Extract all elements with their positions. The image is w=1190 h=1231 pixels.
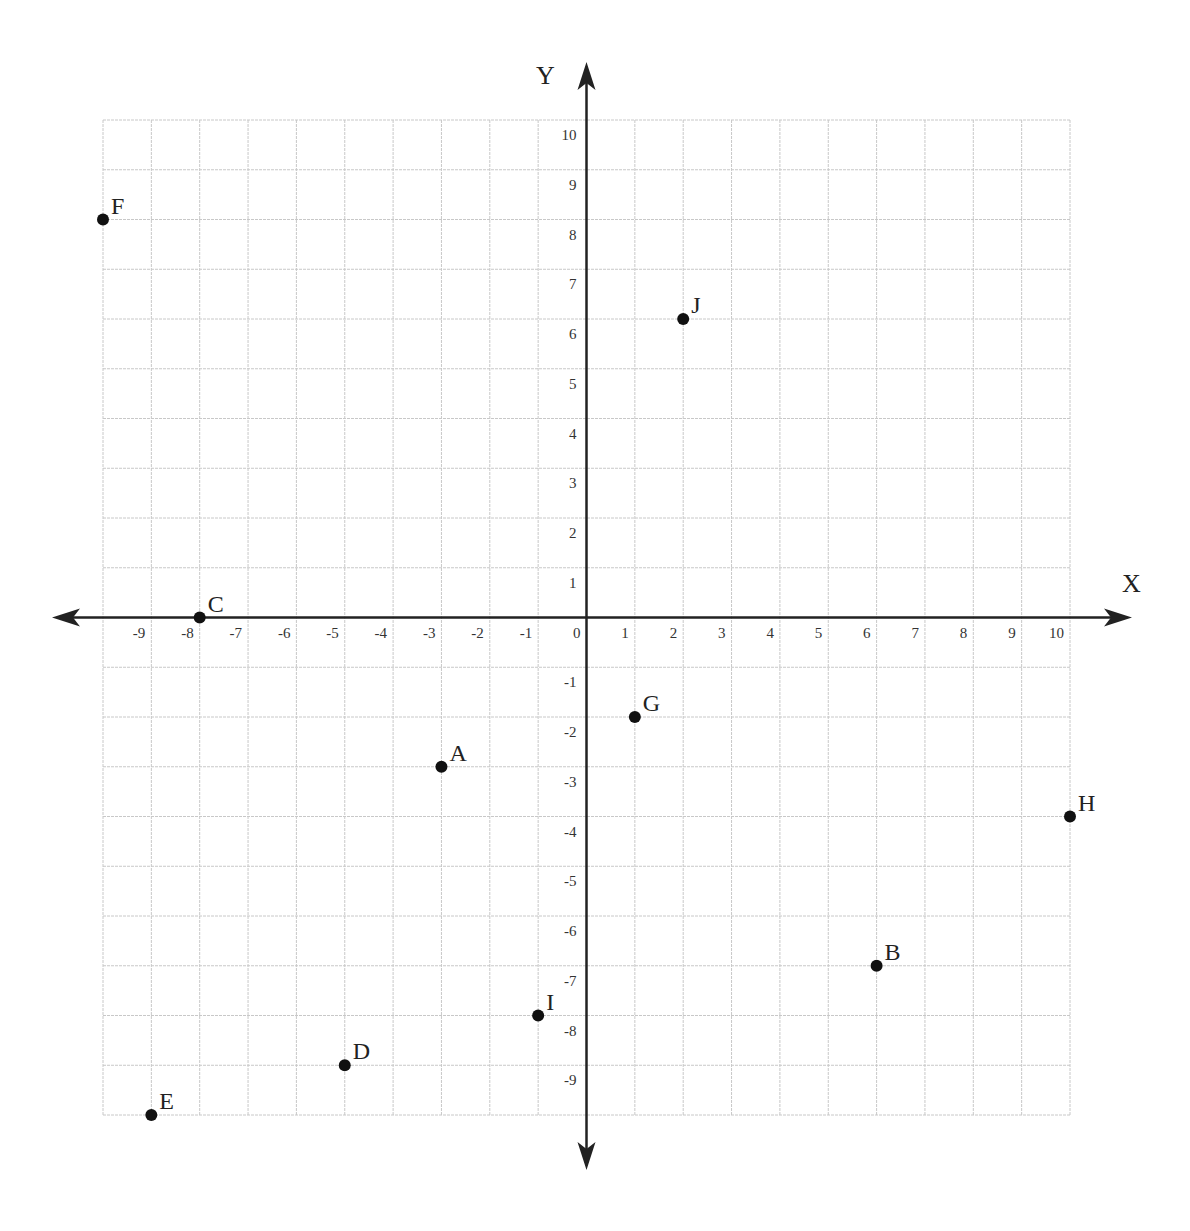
point-marker-icon — [145, 1109, 157, 1121]
x-tick-label: 10 — [1049, 625, 1064, 641]
x-tick-label: -8 — [181, 625, 194, 641]
data-point-j: J — [677, 292, 700, 325]
x-tick-label: 2 — [670, 625, 678, 641]
x-tick-label: -2 — [471, 625, 484, 641]
x-tick-label: -3 — [423, 625, 436, 641]
point-label: J — [691, 292, 700, 318]
y-tick-label: -8 — [564, 1023, 577, 1039]
x-tick-label: 7 — [911, 625, 919, 641]
tick-labels: -9-8-7-6-5-4-3-2-10123456789101098765432… — [133, 127, 1064, 1088]
y-tick-label: 8 — [569, 227, 577, 243]
y-tick-label: -6 — [564, 923, 577, 939]
y-tick-label: -7 — [564, 973, 577, 989]
y-tick-label: 1 — [569, 575, 577, 591]
data-point-d: D — [339, 1038, 370, 1071]
data-point-b: B — [871, 939, 901, 972]
data-point-e: E — [145, 1088, 174, 1121]
y-tick-label: 3 — [569, 475, 577, 491]
x-tick-label: -7 — [230, 625, 243, 641]
x-tick-label: 0 — [573, 625, 581, 641]
x-tick-label: -9 — [133, 625, 146, 641]
y-tick-label: 5 — [569, 376, 577, 392]
y-tick-label: -9 — [564, 1072, 577, 1088]
y-tick-label: 6 — [569, 326, 577, 342]
x-tick-label: -5 — [326, 625, 339, 641]
y-tick-label: 10 — [562, 127, 577, 143]
y-tick-label: -4 — [564, 824, 577, 840]
data-point-a: A — [435, 740, 467, 773]
data-points: ABCDEFGHIJ — [97, 193, 1095, 1122]
x-tick-label: 1 — [621, 625, 629, 641]
point-marker-icon — [871, 960, 883, 972]
point-label: F — [111, 193, 124, 219]
y-tick-label: -3 — [564, 774, 577, 790]
point-marker-icon — [532, 1010, 544, 1022]
point-marker-icon — [194, 612, 206, 624]
point-marker-icon — [339, 1059, 351, 1071]
point-marker-icon — [629, 711, 641, 723]
x-tick-label: 8 — [960, 625, 968, 641]
x-tick-label: -1 — [520, 625, 533, 641]
data-point-h: H — [1064, 790, 1095, 823]
y-tick-label: 7 — [569, 276, 577, 292]
x-tick-label: 6 — [863, 625, 871, 641]
point-label: B — [885, 939, 901, 965]
data-point-f: F — [97, 193, 124, 226]
point-marker-icon — [97, 214, 109, 226]
point-marker-icon — [677, 313, 689, 325]
y-tick-label: 2 — [569, 525, 577, 541]
y-tick-label: -1 — [564, 674, 577, 690]
y-tick-label: -5 — [564, 873, 577, 889]
point-marker-icon — [435, 761, 447, 773]
point-label: A — [449, 740, 467, 766]
x-tick-label: -6 — [278, 625, 291, 641]
data-point-i: I — [532, 989, 554, 1022]
y-tick-label: 9 — [569, 177, 577, 193]
y-tick-label: 4 — [569, 426, 577, 442]
point-label: I — [546, 989, 554, 1015]
x-tick-label: 5 — [815, 625, 823, 641]
point-label: H — [1078, 790, 1095, 816]
coordinate-plane: -9-8-7-6-5-4-3-2-10123456789101098765432… — [0, 0, 1190, 1231]
data-point-g: G — [629, 690, 660, 723]
y-axis-label: Y — [536, 61, 555, 90]
point-marker-icon — [1064, 811, 1076, 823]
x-tick-label: -4 — [375, 625, 388, 641]
point-label: G — [643, 690, 660, 716]
point-label: C — [208, 591, 224, 617]
x-tick-label: 3 — [718, 625, 726, 641]
y-tick-label: -2 — [564, 724, 577, 740]
x-axis-label: X — [1122, 569, 1141, 598]
x-tick-label: 9 — [1008, 625, 1016, 641]
point-label: E — [159, 1088, 174, 1114]
point-label: D — [353, 1038, 370, 1064]
x-tick-label: 4 — [766, 625, 774, 641]
